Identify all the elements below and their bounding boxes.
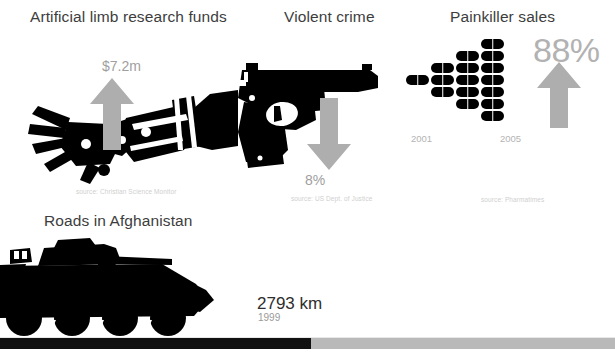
panel-title-painkiller-sales: Painkiller sales	[450, 8, 555, 26]
pill-icon	[481, 87, 504, 97]
pill-icon	[481, 111, 504, 121]
infographic-canvas: Artificial limb research funds $7.2m	[0, 0, 615, 358]
year-label-end: 2005	[500, 133, 521, 144]
trend-up-arrow-artificial-limb	[90, 78, 134, 154]
pill-icon	[481, 75, 504, 85]
pill-pictogram-chart	[406, 32, 504, 128]
pill-icon	[481, 39, 504, 49]
panel-title-artificial-limb: Artificial limb research funds	[30, 8, 227, 26]
year-roads-afghanistan: 1999	[258, 312, 280, 323]
bottom-bar-fill	[0, 338, 311, 349]
pill-icon	[456, 87, 479, 97]
source-violent-crime: source: US Dept. of Justice	[291, 195, 372, 202]
pill-icon	[406, 75, 429, 85]
trend-up-arrow-painkiller-sales	[537, 62, 581, 132]
pill-column-2	[431, 63, 454, 97]
pill-icon	[456, 63, 479, 73]
value-artificial-limb: $7.2m	[102, 58, 141, 74]
pill-icon	[481, 99, 504, 109]
value-violent-crime: 8%	[305, 172, 325, 188]
panel-title-violent-crime: Violent crime	[284, 8, 375, 26]
source-artificial-limb: source: Christian Science Monitor	[76, 188, 176, 195]
pill-column-4	[481, 39, 504, 121]
pill-column-1	[406, 75, 429, 85]
panel-title-roads-afghanistan: Roads in Afghanistan	[44, 212, 193, 230]
trend-down-arrow-violent-crime	[307, 98, 351, 174]
bottom-measurement-bar	[0, 338, 615, 349]
pill-icon	[456, 51, 479, 61]
pill-column-3	[456, 51, 479, 109]
pill-icon	[431, 87, 454, 97]
pill-icon	[481, 51, 504, 61]
pill-icon	[431, 75, 454, 85]
armored-vehicle-icon	[0, 238, 254, 344]
pill-icon	[431, 63, 454, 73]
value-roads-afghanistan: 2793 km	[257, 294, 322, 314]
pill-icon	[456, 99, 479, 109]
year-label-start: 2001	[411, 133, 432, 144]
pill-icon	[481, 63, 504, 73]
source-painkiller-sales: source: Pharmatimes	[481, 196, 544, 203]
pill-icon	[456, 75, 479, 85]
